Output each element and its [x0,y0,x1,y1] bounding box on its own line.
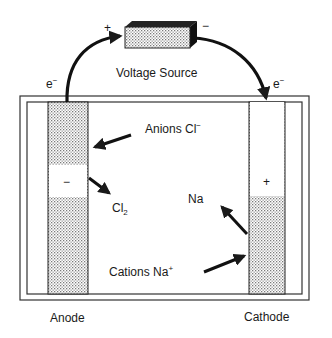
positive-terminal-label: + [104,22,111,34]
anode-electrode [48,102,88,294]
electron-label-right: e− [273,78,284,90]
anions-charge: − [196,121,201,130]
sodium-label: Na [188,193,203,205]
chlorine-text: Cl [112,201,123,215]
chlorine-label: Cl2 [112,202,128,214]
voltage-source-battery [125,21,197,48]
cations-charge: + [168,264,173,273]
negative-terminal-label: − [202,20,209,32]
anions-label: Anions Cl− [145,123,201,135]
electron-symbol: e [273,77,280,91]
anode-label: Anode [50,312,85,324]
anode-sign: − [63,176,70,188]
anions-text: Anions Cl [145,122,196,136]
electron-symbol: e [46,77,53,91]
cathode-sign: + [263,176,270,188]
electron-flow-anode-to-source [67,36,120,102]
electron-label-left: e− [46,78,57,90]
electron-flow-source-to-cathode [193,38,266,98]
cathode-label: Cathode [244,311,289,323]
cations-text: Cations Na [109,265,168,279]
electron-charge: − [280,76,285,85]
sodium-arrow [222,207,247,234]
electron-charge: − [53,76,58,85]
cathode-electrode [249,102,285,294]
voltage-source-label: Voltage Source [116,67,197,79]
chlorine-arrow [89,178,109,193]
cell-diagram [0,0,332,338]
anion-arrow [95,135,131,147]
cation-arrow [204,256,244,272]
cations-label: Cations Na+ [109,266,173,278]
chlorine-subscript: 2 [123,208,127,217]
